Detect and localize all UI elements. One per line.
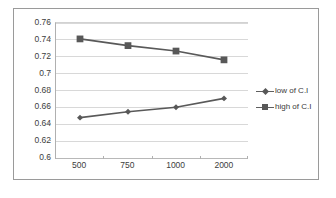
y-tick-label: 0.72 bbox=[7, 52, 51, 61]
data-point-square-marker bbox=[125, 42, 132, 49]
y-tick-label: 0.74 bbox=[7, 35, 51, 44]
x-tick-mark bbox=[200, 156, 201, 159]
data-point-diamond-marker bbox=[173, 104, 179, 110]
x-tick-mark bbox=[152, 156, 153, 159]
legend-marker-diamond-icon bbox=[256, 86, 274, 96]
x-tick-label: 500 bbox=[72, 161, 86, 170]
data-point-diamond-marker bbox=[77, 115, 83, 121]
chart-legend: low of C.I high of C.I bbox=[256, 84, 316, 120]
x-tick-label: 2000 bbox=[214, 161, 233, 170]
y-tick-mark bbox=[48, 140, 51, 141]
series-layer bbox=[56, 23, 248, 157]
x-tick-label: 750 bbox=[120, 161, 134, 170]
y-tick-label: 0.76 bbox=[7, 18, 51, 27]
y-tick-mark bbox=[48, 38, 51, 39]
y-tick-label: 0.62 bbox=[7, 136, 51, 145]
series-line bbox=[80, 98, 224, 117]
series-line bbox=[80, 39, 224, 60]
data-point-diamond-marker bbox=[221, 95, 227, 101]
legend-entry-low-of-ci[interactable]: low of C.I bbox=[256, 84, 308, 98]
chart-figure: 0.760.740.720.70.680.660.640.620.6 50075… bbox=[0, 0, 336, 198]
y-tick-label: 0.68 bbox=[7, 85, 51, 94]
legend-label-high-of-ci: high of C.I bbox=[274, 103, 311, 111]
y-tick-mark bbox=[48, 157, 51, 158]
series-high-of-c-i bbox=[77, 36, 228, 64]
y-axis-tick-labels: 0.760.740.720.70.680.660.640.620.6 bbox=[0, 22, 51, 157]
y-tick-label: 0.6 bbox=[7, 153, 51, 162]
y-tick-mark bbox=[48, 22, 51, 23]
x-tick-label: 1000 bbox=[166, 161, 185, 170]
data-point-square-marker bbox=[77, 36, 84, 43]
data-point-diamond-marker bbox=[125, 109, 131, 115]
x-tick-mark bbox=[103, 156, 104, 159]
x-tick-mark bbox=[247, 156, 248, 159]
x-tick-mark bbox=[55, 156, 56, 159]
x-axis-tick-labels: 50075010002000 bbox=[55, 159, 248, 175]
series-low-of-c-i bbox=[77, 95, 227, 120]
plot-area bbox=[55, 22, 248, 157]
y-tick-mark bbox=[48, 89, 51, 90]
legend-entry-high-of-ci[interactable]: high of C.I bbox=[256, 100, 311, 114]
y-tick-label: 0.7 bbox=[7, 68, 51, 77]
y-tick-label: 0.64 bbox=[7, 119, 51, 128]
data-point-square-marker bbox=[173, 48, 180, 55]
data-point-square-marker bbox=[221, 56, 228, 63]
y-tick-mark bbox=[48, 123, 51, 124]
y-tick-mark bbox=[48, 106, 51, 107]
y-tick-mark bbox=[48, 55, 51, 56]
legend-label-low-of-ci: low of C.I bbox=[274, 87, 308, 95]
y-tick-mark bbox=[48, 72, 51, 73]
y-tick-label: 0.66 bbox=[7, 102, 51, 111]
legend-marker-square-icon bbox=[256, 102, 274, 112]
